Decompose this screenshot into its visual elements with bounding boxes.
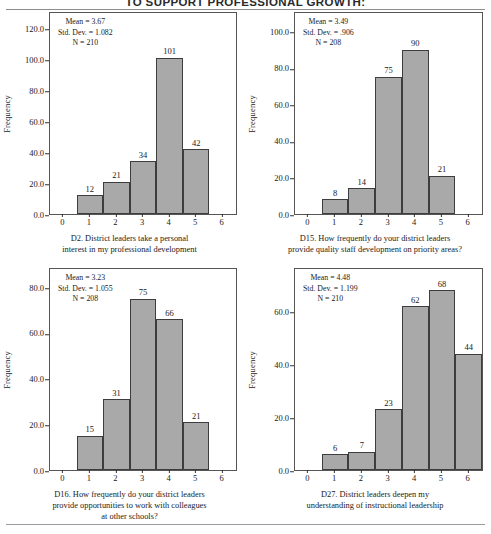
bar [77, 195, 104, 214]
x-tick-label: 6 [466, 218, 470, 227]
x-tick-label: 3 [385, 474, 389, 483]
y-tick-label: 40.0 [274, 138, 289, 147]
plot-frame-d27: Mean = 4.48Std. Dev. = 1.199N = 21067236… [294, 268, 483, 471]
y-tick-label: 40.0 [274, 361, 289, 370]
chart-grid: Frequency0.020.040.060.080.0100.0120.0Me… [0, 12, 491, 524]
bar [130, 299, 157, 470]
chart-cell-2: Frequency0.020.040.060.080.0Mean = 3.23S… [0, 268, 245, 524]
chart-d16: Frequency0.020.040.060.080.0Mean = 3.23S… [0, 268, 245, 524]
bar [375, 77, 402, 214]
bar [130, 161, 157, 214]
y-tick-label: 80.0 [29, 87, 44, 96]
y-axis-label-d27: Frequency [245, 268, 258, 471]
x-tick-label: 1 [87, 218, 91, 227]
x-axis-d15: 0123456 [245, 215, 491, 230]
x-tick-label: 5 [193, 474, 197, 483]
x-tick-label: 1 [332, 474, 336, 483]
bar-value-label: 68 [438, 280, 447, 291]
page-title: TO SUPPORT PROFESSIONAL GROWTH: [0, 0, 491, 7]
chart-d15: Frequency0.020.040.060.080.0100.0Mean = … [245, 12, 491, 268]
x-tick-label: 2 [359, 474, 363, 483]
plot-area-d2: Frequency0.020.040.060.080.0100.0120.0Me… [0, 12, 245, 215]
x-tick-label: 2 [113, 218, 117, 227]
footer-divider [6, 524, 485, 525]
y-axis-ticks-d2: 0.020.040.060.080.0100.0120.0 [13, 12, 49, 215]
x-tick-label: 2 [359, 218, 363, 227]
x-tick-label: 1 [332, 218, 336, 227]
bar [156, 319, 183, 470]
chart-cell-0: Frequency0.020.040.060.080.0100.0120.0Me… [0, 12, 245, 268]
x-tick-label: 6 [220, 218, 224, 227]
caption-line: provide opportunities to work with colle… [30, 501, 229, 512]
bar [183, 149, 210, 214]
bar [103, 399, 130, 470]
x-tick-label: 4 [412, 218, 416, 227]
page: TO SUPPORT PROFESSIONAL GROWTH: Frequenc… [0, 0, 491, 534]
bar [455, 354, 482, 470]
bar-value-label: 8 [333, 189, 337, 200]
y-tick-label: 40.0 [29, 149, 44, 158]
bar-value-label: 21 [192, 412, 201, 423]
bar [103, 182, 130, 214]
x-tick-label: 3 [140, 218, 144, 227]
bar-value-label: 21 [438, 165, 447, 176]
bars-d15: 814759021 [295, 13, 482, 214]
chart-caption-d15: D15. How frequently do your district lea… [245, 230, 491, 268]
chart-caption-d16: D16. How frequently do your district lea… [0, 486, 245, 524]
caption-line: understanding of instructional leadershi… [275, 501, 475, 512]
x-tick-label: 5 [193, 218, 197, 227]
bar-value-label: 12 [86, 185, 95, 196]
y-axis-label-text: Frequency [247, 351, 257, 389]
x-tick-label: 4 [166, 474, 170, 483]
x-tick-label: 3 [140, 474, 144, 483]
y-axis-label-d16: Frequency [0, 268, 13, 471]
y-tick-label: 60.0 [29, 118, 44, 127]
bar-value-label: 6 [333, 444, 337, 455]
bar [348, 452, 375, 471]
bar [77, 436, 104, 470]
y-tick-label: 20.0 [274, 174, 289, 183]
bar-value-label: 7 [360, 441, 364, 452]
bar [402, 50, 429, 214]
chart-d27: Frequency0.020.040.060.0Mean = 4.48Std. … [245, 268, 491, 524]
y-axis-label-d15: Frequency [245, 12, 258, 215]
bar [402, 306, 429, 470]
bar-value-label: 42 [192, 139, 201, 150]
caption-line: provide quality staff development on pri… [275, 245, 475, 256]
chart-d2: Frequency0.020.040.060.080.0100.0120.0Me… [0, 12, 245, 268]
x-tick-label: 1 [87, 474, 91, 483]
x-tick-label: 6 [220, 474, 224, 483]
y-tick-label: 120.0 [25, 25, 44, 34]
bar-value-label: 75 [139, 288, 148, 299]
plot-frame-d2: Mean = 3.67Std. Dev. = 1.082N = 21012213… [49, 12, 237, 215]
y-tick-label: 60.0 [29, 330, 44, 339]
bars-d27: 6723626844 [295, 269, 482, 470]
y-axis-label-text: Frequency [247, 95, 257, 133]
caption-line: at other schools? [30, 512, 229, 523]
bar [429, 176, 456, 214]
chart-cell-1: Frequency0.020.040.060.080.0100.0Mean = … [245, 12, 491, 268]
y-axis-label-text: Frequency [2, 95, 12, 133]
bar-value-label: 90 [411, 39, 420, 50]
plot-frame-d15: Mean = 3.49Std. Dev. = .906N = 208814759… [294, 12, 483, 215]
x-tick-label: 2 [113, 474, 117, 483]
bar-value-label: 62 [411, 296, 420, 307]
x-tick-label: 5 [439, 474, 443, 483]
y-tick-label: 20.0 [274, 414, 289, 423]
caption-line: D15. How frequently do your district lea… [275, 234, 475, 245]
chart-cell-3: Frequency0.020.040.060.0Mean = 4.48Std. … [245, 268, 491, 524]
bar-value-label: 31 [112, 389, 121, 400]
y-axis-ticks-d15: 0.020.040.060.080.0100.0 [258, 12, 294, 215]
plot-frame-d16: Mean = 3.23Std. Dev. = 1.055N = 20815317… [49, 268, 237, 471]
x-tick-label: 4 [166, 218, 170, 227]
bars-d2: 12213410142 [50, 13, 236, 214]
bar [375, 409, 402, 470]
x-axis-d27: 0123456 [245, 471, 491, 486]
x-tick-label: 5 [439, 218, 443, 227]
y-axis-ticks-d16: 0.020.040.060.080.0 [13, 268, 49, 471]
x-tick-label: 0 [60, 474, 64, 483]
plot-area-d27: Frequency0.020.040.060.0Mean = 4.48Std. … [245, 268, 491, 471]
caption-line: D16. How frequently do your district lea… [30, 490, 229, 501]
x-axis-d16: 0123456 [0, 471, 245, 486]
bar-value-label: 101 [163, 47, 176, 58]
